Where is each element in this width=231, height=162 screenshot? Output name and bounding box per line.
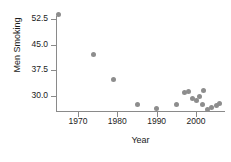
data-point (135, 102, 140, 107)
data-point (174, 102, 179, 107)
x-tick-label: 1980 (97, 116, 137, 126)
data-point (56, 12, 61, 17)
x-tick-label: 2000 (176, 116, 216, 126)
x-tick-label: 1970 (58, 116, 98, 126)
data-point (200, 102, 205, 107)
data-point (111, 77, 116, 82)
data-point (194, 98, 199, 103)
data-point (217, 101, 222, 106)
y-tick-label: 30.0 (16, 91, 48, 100)
data-point (197, 94, 202, 99)
x-tick-label: 1990 (137, 116, 177, 126)
data-point (201, 88, 206, 93)
y-tick (51, 96, 57, 97)
data-point (91, 52, 96, 57)
x-axis-line (56, 111, 225, 112)
y-tick (51, 45, 57, 46)
data-point (186, 89, 191, 94)
x-axis-title: Year (56, 135, 225, 145)
y-tick (51, 19, 57, 20)
y-tick (51, 70, 57, 71)
scatter-chart: 30.037.545.052.5 1970198019902000 Men Sm… (0, 0, 231, 162)
y-axis-title: Men Smoking (12, 0, 22, 92)
